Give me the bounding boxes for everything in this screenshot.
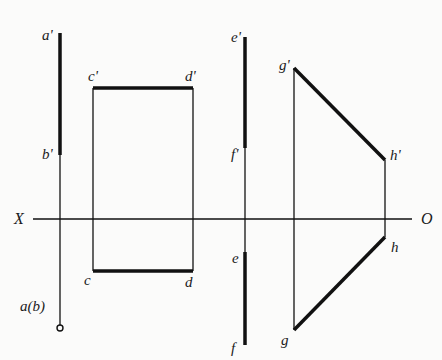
label-g: g	[281, 332, 289, 348]
label-d: d	[185, 274, 193, 290]
label-f-prime: f'	[231, 146, 239, 162]
label-c-prime: c'	[88, 68, 99, 84]
label-a-prime: a'	[42, 27, 54, 43]
label-e: e	[232, 250, 239, 266]
label-ab: a(b)	[20, 298, 45, 315]
label-h-prime: h'	[390, 147, 402, 163]
label-b-prime: b'	[42, 146, 54, 162]
label-h: h	[391, 239, 399, 255]
label-f: f	[231, 340, 237, 356]
projection-diagram: X O a' b' a(b) c' d' c d e' f' e f g' h'…	[0, 0, 442, 360]
axis-label-x: X	[13, 210, 25, 227]
gh-top-projection	[294, 237, 385, 330]
label-c: c	[84, 272, 91, 288]
ab-top-point	[57, 325, 63, 331]
label-d-prime: d'	[185, 68, 197, 84]
label-e-prime: e'	[231, 29, 242, 45]
gh-front-projection	[294, 68, 385, 160]
label-g-prime: g'	[279, 57, 291, 73]
axis-label-o: O	[421, 210, 433, 227]
